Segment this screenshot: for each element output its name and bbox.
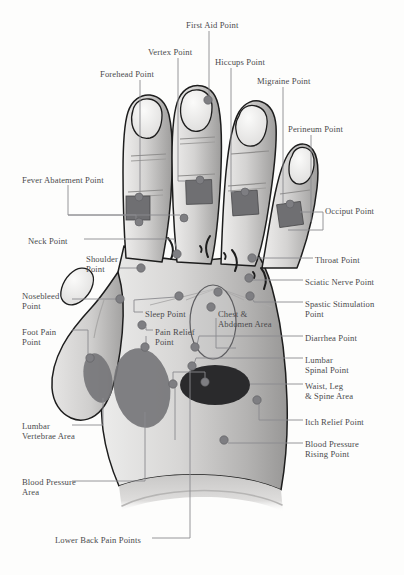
label-pain-relief-point: Pain Relief Point xyxy=(155,327,195,348)
label-sleep-point: Sleep Point xyxy=(145,309,186,319)
label-waist-leg-spine-area: Waist, Leg & Spine Area xyxy=(305,381,353,402)
pain-relief-marker2[interactable] xyxy=(141,343,149,351)
label-foot-pain-point: Foot Pain Point xyxy=(22,327,56,348)
foot-pain-marker[interactable] xyxy=(86,354,94,362)
label-hiccups-point: Hiccups Point xyxy=(215,57,265,67)
waist-marker-b[interactable] xyxy=(201,378,209,386)
sciatic-marker[interactable] xyxy=(245,274,253,282)
label-migraine-point: Migraine Point xyxy=(257,76,310,86)
label-fever-abatement-point: Fever Abatement Point xyxy=(22,175,104,185)
lumbar-spinal-marker[interactable] xyxy=(188,362,196,370)
label-vertex-point: Vertex Point xyxy=(148,47,192,57)
chest-top-marker[interactable] xyxy=(214,288,222,296)
shoulder-marker[interactable] xyxy=(137,264,145,272)
label-chest-abdomen-area: Chest & Abdomen Area xyxy=(218,309,272,330)
ring-nail xyxy=(236,105,267,146)
label-sciatic-nerve-point: Sciatic Nerve Point xyxy=(305,277,374,287)
label-first-aid-point: First Aid Point xyxy=(186,20,238,30)
fever-marker-2[interactable] xyxy=(135,218,143,226)
label-occiput-point: Occiput Point xyxy=(325,206,374,216)
migraine-marker[interactable] xyxy=(286,200,294,208)
chest-mid-marker[interactable] xyxy=(207,303,215,311)
itch-relief-marker[interactable] xyxy=(253,396,261,404)
neck-marker[interactable] xyxy=(173,250,181,258)
pain-relief-marker[interactable] xyxy=(138,321,146,329)
fever-marker[interactable] xyxy=(180,214,188,222)
label-neck-point: Neck Point xyxy=(28,236,68,246)
bp-rising-marker[interactable] xyxy=(220,436,228,444)
nosebleed-marker[interactable] xyxy=(116,295,124,303)
label-throat-point: Throat Point xyxy=(315,255,360,265)
label-diarrhea-point: Diarrhea Point xyxy=(305,333,357,343)
label-lumbar-spinal-point: Lumbar Spinal Point xyxy=(305,355,349,376)
first-aid-marker[interactable] xyxy=(204,96,212,104)
label-forehead-point: Forehead Point xyxy=(100,69,154,79)
label-spastic-stimulation-point: Spastic Stimulation Point xyxy=(305,299,374,320)
forehead-marker[interactable] xyxy=(135,193,143,201)
label-perineum-point: Perineum Point xyxy=(288,124,343,134)
sleep-marker[interactable] xyxy=(175,292,183,300)
label-lumbar-vertebrae-area: Lumbar Vertebrae Area xyxy=(22,421,75,442)
label-shoulder-point: Shoulder Point xyxy=(86,254,118,275)
waist-marker-a[interactable] xyxy=(169,380,177,388)
label-blood-pressure-rising-point: Blood Pressure Rising Point xyxy=(305,439,359,460)
waist-leg-spine-area-shape xyxy=(180,365,250,405)
hiccups-marker[interactable] xyxy=(241,188,249,196)
index-nail xyxy=(132,99,162,139)
label-lower-back-pain-points: Lower Back Pain Points xyxy=(55,535,141,545)
label-blood-pressure-area: Blood Pressure Area xyxy=(22,477,76,498)
acupressure-diagram: First Aid PointVertex PointHiccups Point… xyxy=(0,0,404,575)
web-crease-index-middle xyxy=(168,238,173,259)
spastic-marker[interactable] xyxy=(246,292,254,300)
label-itch-relief-point: Itch Relief Point xyxy=(305,417,364,427)
label-nosebleed-point: Nosebleed Point xyxy=(22,291,59,312)
vertex-marker[interactable] xyxy=(196,176,204,184)
throat-marker[interactable] xyxy=(248,254,256,262)
